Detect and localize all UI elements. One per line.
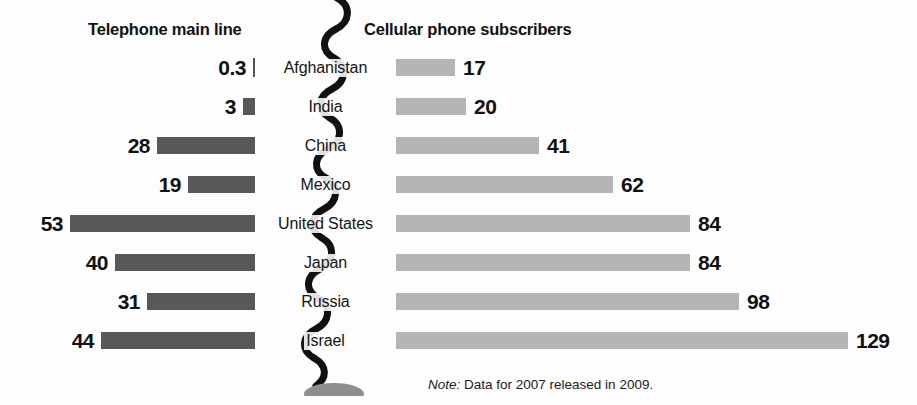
row-left-telephone: 31 xyxy=(0,282,255,321)
chart-row: 40 Japan 84 xyxy=(0,243,917,282)
row-right-cellular: 17 xyxy=(396,48,485,87)
row-right-cellular: 84 xyxy=(396,204,720,243)
row-right-cellular: 98 xyxy=(396,282,769,321)
row-right-cellular: 41 xyxy=(396,126,569,165)
right-value-label: 20 xyxy=(474,96,496,117)
row-right-cellular: 84 xyxy=(396,243,720,282)
chart-row: 0.3 Afghanistan 17 xyxy=(0,48,917,87)
left-bar xyxy=(70,215,255,232)
right-bar xyxy=(396,59,455,76)
right-bar xyxy=(396,176,613,193)
row-left-telephone: 19 xyxy=(0,165,255,204)
chart-row: 28 China 41 xyxy=(0,126,917,165)
row-country: Mexico xyxy=(255,165,396,204)
row-country: China xyxy=(255,126,396,165)
row-right-cellular: 129 xyxy=(396,321,890,360)
left-bar xyxy=(188,176,255,193)
row-right-cellular: 62 xyxy=(396,165,643,204)
chart-note: Note: Data for 2007 released in 2009. xyxy=(428,377,653,392)
row-left-telephone: 0.3 xyxy=(0,48,255,87)
right-value-label: 84 xyxy=(698,252,720,273)
row-country: Russia xyxy=(255,282,396,321)
country-label: Japan xyxy=(302,254,349,272)
chart-row: 19 Mexico 62 xyxy=(0,165,917,204)
left-value-label: 28 xyxy=(128,135,150,156)
left-value-label: 19 xyxy=(159,174,181,195)
country-label: Mexico xyxy=(298,176,352,194)
country-label: Afghanistan xyxy=(282,59,369,77)
row-left-telephone: 53 xyxy=(0,204,255,243)
note-prefix: Note: xyxy=(428,377,460,392)
chart-row: 44 Israel 129 xyxy=(0,321,917,360)
chart-row: 31 Russia 98 xyxy=(0,282,917,321)
right-bar xyxy=(396,332,848,349)
right-value-label: 129 xyxy=(856,330,890,351)
left-bar xyxy=(157,137,255,154)
right-bar xyxy=(396,254,690,271)
right-value-label: 62 xyxy=(621,174,643,195)
right-bar xyxy=(396,137,539,154)
row-country: United States xyxy=(255,204,396,243)
right-value-label: 98 xyxy=(747,291,769,312)
country-label: China xyxy=(303,137,348,155)
right-value-label: 41 xyxy=(547,135,569,156)
left-bar xyxy=(101,332,255,349)
note-text: Data for 2007 released in 2009. xyxy=(460,377,653,392)
left-bar xyxy=(147,293,255,310)
left-value-label: 3 xyxy=(225,96,236,117)
left-value-label: 53 xyxy=(41,213,63,234)
right-value-label: 84 xyxy=(698,213,720,234)
chart-figure: Telephone main line Cellular phone subsc… xyxy=(0,0,917,405)
left-bar xyxy=(115,254,255,271)
right-bar xyxy=(396,98,466,115)
left-value-label: 40 xyxy=(86,252,108,273)
row-country: India xyxy=(255,87,396,126)
country-label: Russia xyxy=(299,293,351,311)
chart-rows: 0.3 Afghanistan 17 3 India 20 xyxy=(0,48,917,360)
row-right-cellular: 20 xyxy=(396,87,496,126)
left-bar xyxy=(243,98,255,115)
left-value-label: 44 xyxy=(72,330,94,351)
chart-row: 3 India 20 xyxy=(0,87,917,126)
country-label: India xyxy=(306,98,344,116)
series-header-cellular: Cellular phone subscribers xyxy=(364,20,572,39)
right-bar xyxy=(396,215,690,232)
phone-handset-icon xyxy=(304,383,364,396)
row-country: Afghanistan xyxy=(255,48,396,87)
country-label: Israel xyxy=(304,332,347,350)
right-value-label: 17 xyxy=(463,57,485,78)
right-bar xyxy=(396,293,739,310)
chart-row: 53 United States 84 xyxy=(0,204,917,243)
country-label: United States xyxy=(276,215,375,233)
series-header-telephone: Telephone main line xyxy=(88,20,242,39)
row-left-telephone: 3 xyxy=(0,87,255,126)
left-value-label: 0.3 xyxy=(218,57,246,78)
row-country: Israel xyxy=(255,321,396,360)
row-left-telephone: 44 xyxy=(0,321,255,360)
row-left-telephone: 28 xyxy=(0,126,255,165)
row-left-telephone: 40 xyxy=(0,243,255,282)
row-country: Japan xyxy=(255,243,396,282)
left-value-label: 31 xyxy=(118,291,140,312)
